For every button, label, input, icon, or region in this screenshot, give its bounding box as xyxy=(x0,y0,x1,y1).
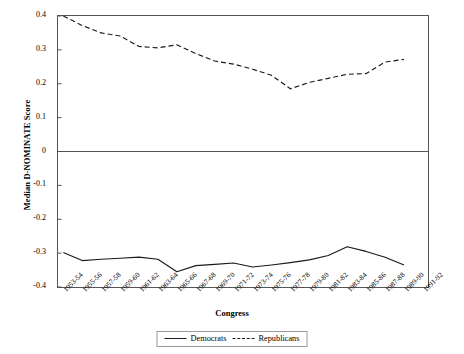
y-tick-label: 0.3 xyxy=(20,45,46,53)
legend-item: Democrats xyxy=(165,334,227,343)
y-tick-label: 0.2 xyxy=(20,79,46,87)
y-tick-label: 0.4 xyxy=(20,11,46,19)
series-line-republicans xyxy=(63,16,404,89)
legend-label: Republicans xyxy=(258,334,299,343)
legend-label: Democrats xyxy=(191,334,227,343)
plot-area xyxy=(57,15,429,288)
legend-item: Republicans xyxy=(232,334,299,343)
x-axis-title: Congress xyxy=(0,308,464,318)
legend-swatch-dashed xyxy=(232,338,254,339)
chart-figure: Median D-NOMINATE Score 0.40.30.20.10-0.… xyxy=(0,0,464,354)
series-line-democrats xyxy=(63,247,404,272)
chart-legend: DemocratsRepublicans xyxy=(157,331,308,347)
y-tick-label: -0.2 xyxy=(20,214,46,222)
series-canvas xyxy=(58,16,428,287)
y-tick-label: -0.1 xyxy=(20,180,46,188)
y-tick-label: 0.1 xyxy=(20,113,46,121)
y-tick-label: -0.3 xyxy=(20,248,46,256)
y-tick-label: 0 xyxy=(20,147,46,155)
legend-swatch-solid xyxy=(165,338,187,339)
